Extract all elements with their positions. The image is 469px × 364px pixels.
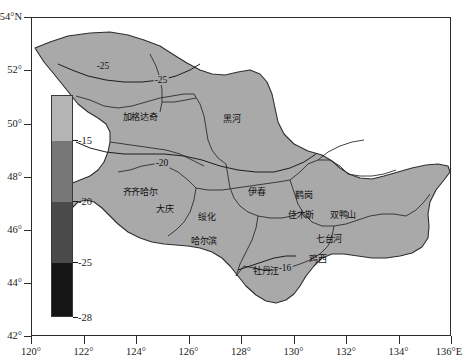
x-axis-tick <box>399 336 400 344</box>
x-axis-label: 124° <box>126 346 146 357</box>
city-label-heihe: 黑河 <box>223 112 240 125</box>
x-axis-label: 132° <box>336 346 356 357</box>
contour-label: -25 <box>154 75 169 85</box>
x-axis-tick <box>136 336 137 344</box>
x-axis-tick <box>294 336 295 344</box>
contour-label: -25 <box>96 61 111 71</box>
x-axis-label: 136°E <box>436 346 462 357</box>
x-axis-tick <box>189 336 190 344</box>
colorbar-label: -25 <box>78 257 92 268</box>
y-axis-tick <box>24 124 32 125</box>
y-axis-label: 46° <box>0 224 22 235</box>
y-axis-tick <box>24 17 32 18</box>
colorbar-segment-20-25 <box>52 202 72 263</box>
y-axis-tick <box>24 230 32 231</box>
colorbar-segment-above-15 <box>52 96 72 141</box>
city-label-jiagedaqi: 加格达奇 <box>123 110 158 123</box>
city-label-qitaihe: 七台河 <box>316 232 342 245</box>
figure-root: -25 -25 -20 -16 加格达奇 黑河 齐齐哈尔 大庆 绥化 哈尔滨 伊… <box>0 0 469 364</box>
x-axis-label: 126° <box>179 346 199 357</box>
plot-frame: -25 -25 -20 -16 加格达奇 黑河 齐齐哈尔 大庆 绥化 哈尔滨 伊… <box>31 17 451 336</box>
y-axis-label: 52° <box>0 64 22 75</box>
x-axis-label: 122° <box>74 346 94 357</box>
colorbar-segment-25-28 <box>52 263 72 317</box>
contour-label: -20 <box>155 158 170 168</box>
y-axis-tick <box>24 70 32 71</box>
colorbar-label: -20 <box>78 196 92 207</box>
city-label-yichun: 伊春 <box>248 185 265 198</box>
colorbar-label: -28 <box>78 312 92 323</box>
city-label-jixi: 鸡西 <box>309 252 326 265</box>
city-label-hegang: 鹤岗 <box>295 188 312 201</box>
y-axis-label: 48° <box>0 171 22 182</box>
city-label-haerbin: 哈尔滨 <box>191 234 217 247</box>
city-label-daqing: 大庆 <box>156 202 173 215</box>
y-axis-label: 54°N <box>0 11 22 22</box>
x-axis-label: 120° <box>21 346 41 357</box>
x-axis-tick <box>31 336 32 344</box>
x-axis-label: 128° <box>231 346 251 357</box>
x-axis-label: 134° <box>389 346 409 357</box>
colorbar-segment-15-20 <box>52 141 72 202</box>
city-label-jiamusi: 佳木斯 <box>288 208 314 221</box>
colorbar-label: -15 <box>78 135 92 146</box>
y-axis-label: 44° <box>0 277 22 288</box>
x-axis-tick <box>241 336 242 344</box>
city-label-shuangyashan: 双鸭山 <box>330 208 356 221</box>
x-axis-tick <box>346 336 347 344</box>
y-axis-label: 50° <box>0 118 22 129</box>
x-axis-tick <box>84 336 85 344</box>
x-axis-label: 130° <box>284 346 304 357</box>
y-axis-tick <box>24 283 32 284</box>
y-axis-tick <box>24 177 32 178</box>
x-axis-tick <box>451 336 452 344</box>
contour-label: -16 <box>278 263 293 273</box>
city-label-mudanjiang: 牡丹江 <box>253 264 279 277</box>
colorbar <box>51 95 73 317</box>
city-label-suihua: 绥化 <box>198 210 215 223</box>
province-outline <box>35 32 450 303</box>
city-label-qiqihaer: 齐齐哈尔 <box>123 185 158 198</box>
y-axis-label: 42° <box>0 330 22 341</box>
